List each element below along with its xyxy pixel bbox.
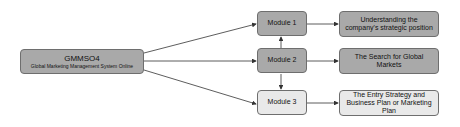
root-subtitle: Global Marketing Management System Onlin… bbox=[31, 64, 133, 70]
module-1-label: Module 1 bbox=[268, 19, 297, 27]
edge-root-module1 bbox=[144, 24, 256, 53]
module-3-label: Module 3 bbox=[268, 98, 297, 106]
edge-root-module3 bbox=[144, 70, 256, 104]
root-node-gmmso4: GMMSO4 Global Marketing Management Syste… bbox=[20, 49, 144, 74]
outcome-3-label: The Entry Strategy and Business Plan or … bbox=[343, 91, 435, 115]
module-3-node: Module 3 bbox=[257, 90, 307, 115]
outcome-3-node: The Entry Strategy and Business Plan or … bbox=[339, 90, 439, 116]
module-2-label: Module 2 bbox=[268, 56, 297, 64]
module-2-node: Module 2 bbox=[257, 48, 307, 73]
outcome-1-node: Understanding the company's strategic po… bbox=[339, 11, 439, 37]
root-title: GMMSO4 bbox=[64, 54, 100, 63]
outcome-2-label: The Search for Global Markets bbox=[343, 53, 435, 69]
module-1-node: Module 1 bbox=[257, 11, 307, 36]
outcome-1-label: Understanding the company's strategic po… bbox=[343, 16, 435, 32]
outcome-2-node: The Search for Global Markets bbox=[339, 48, 439, 74]
